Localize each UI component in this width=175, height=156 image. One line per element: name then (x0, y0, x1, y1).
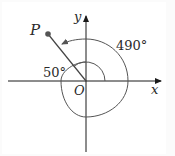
angle-490-label: 490° (116, 39, 147, 52)
point-P-dot (45, 31, 51, 37)
angle-50-label: 50° (43, 66, 66, 79)
x-axis-label: x (151, 83, 158, 96)
origin-label: O (74, 84, 85, 97)
point-P-label: P (30, 23, 40, 38)
coordinate-plane (0, 0, 175, 156)
y-axis-label: y (74, 10, 81, 23)
diagram-frame: P y x O 490° 50° (0, 0, 175, 156)
